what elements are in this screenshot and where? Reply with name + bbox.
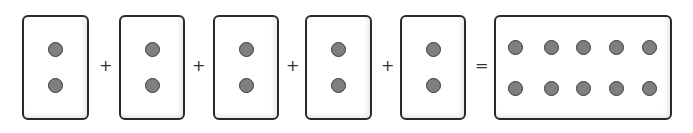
dot [331, 78, 346, 93]
dot [642, 81, 657, 96]
dot [609, 81, 624, 96]
dot [609, 40, 624, 55]
dot [576, 81, 591, 96]
dot [145, 42, 160, 57]
equals-sign: = [475, 58, 488, 74]
addend-card-5 [400, 15, 466, 120]
dot [145, 78, 160, 93]
plus-sign: + [381, 58, 394, 74]
addend-card-3 [213, 15, 279, 120]
plus-sign: + [286, 58, 299, 74]
dot [544, 81, 559, 96]
dot [508, 81, 523, 96]
dot [642, 40, 657, 55]
dot [544, 40, 559, 55]
dot [426, 42, 441, 57]
dot [426, 78, 441, 93]
dot [239, 78, 254, 93]
dot [331, 42, 346, 57]
addend-card-4 [305, 15, 372, 120]
addend-card-1 [22, 15, 89, 120]
addend-card-2 [119, 15, 185, 120]
dot [48, 42, 63, 57]
dot [508, 40, 523, 55]
result-card [494, 15, 672, 120]
plus-sign: + [99, 58, 112, 74]
dot [576, 40, 591, 55]
dot [239, 42, 254, 57]
dot [48, 78, 63, 93]
plus-sign: + [192, 58, 205, 74]
